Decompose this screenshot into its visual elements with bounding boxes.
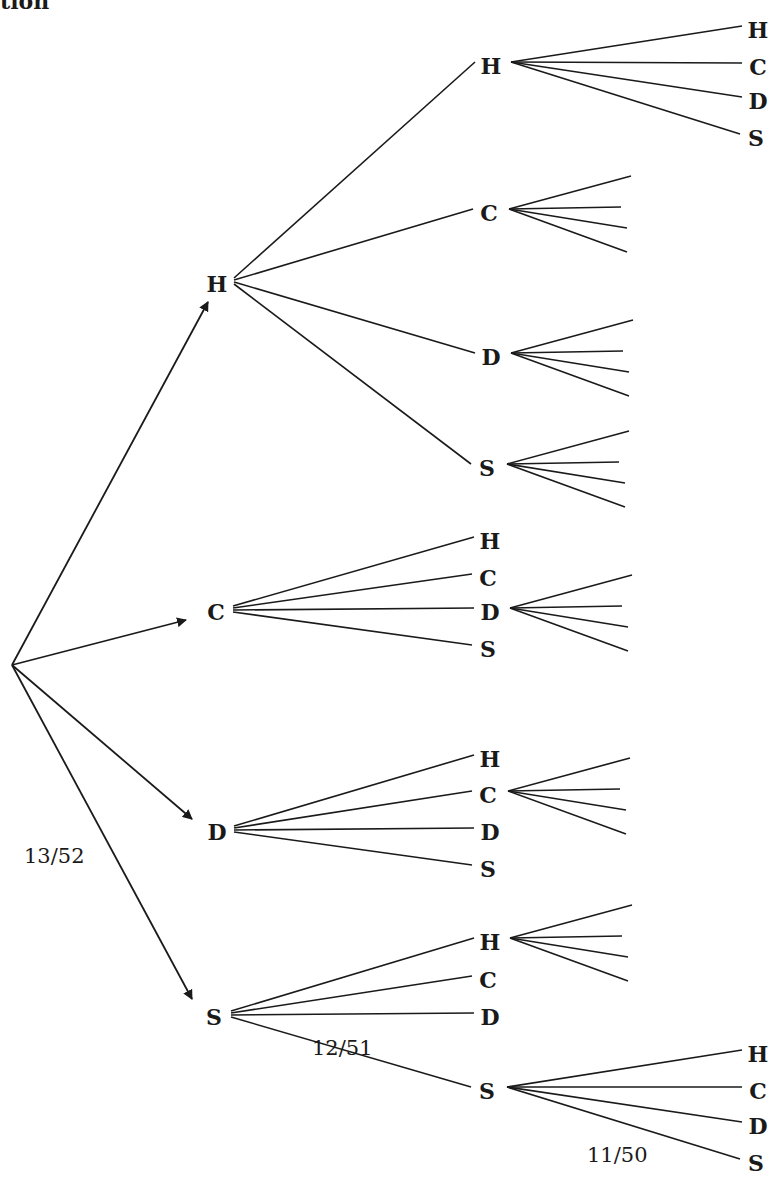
node-l3-diamonds: D [748, 90, 767, 112]
node-l2-clubs-spades: S [480, 638, 496, 660]
branch-diamonds-hearts [234, 755, 474, 826]
node-l2-hearts-clubs: C [480, 202, 498, 224]
branch-l3-stub [508, 791, 626, 810]
node-l1-diamonds: D [207, 821, 226, 843]
branch-root-spades [12, 665, 192, 999]
branch-l3-stub [510, 905, 632, 938]
branch-hearts-diamonds [234, 282, 475, 353]
node-l2-spades-clubs: C [479, 969, 497, 991]
node-l1-hearts: H [207, 273, 228, 295]
node-l2-spades-hearts: H [480, 931, 501, 953]
branch-spades-clubs [231, 976, 472, 1013]
branch-l3-hearts-hearts-diamonds [511, 62, 742, 97]
branch-diamonds-clubs [234, 791, 472, 828]
branch-l3-stub [509, 209, 627, 252]
branch-l3-stub [510, 606, 622, 608]
branch-l3-stub [507, 464, 625, 507]
node-l2-spades-spades: S [479, 1080, 495, 1102]
branch-l3-stub [510, 575, 632, 608]
branch-l3-hearts-hearts-hearts [511, 26, 742, 62]
node-l3-clubs: C [749, 1080, 767, 1102]
branch-l3-stub [508, 758, 630, 791]
branch-root-hearts [12, 302, 208, 665]
branch-hearts-clubs [234, 209, 473, 280]
branch-l3-stub [511, 320, 633, 353]
branch-l3-stub [510, 608, 628, 651]
node-l3-spades: S [748, 127, 764, 149]
branch-l3-stub [510, 936, 622, 938]
branch-l3-stub [507, 462, 619, 464]
node-l3-clubs: C [749, 56, 767, 78]
branch-l3-hearts-hearts-clubs [511, 62, 742, 63]
branch-clubs-spades [233, 612, 472, 645]
node-l3-spades: S [748, 1152, 764, 1174]
probability-label: 13/52 [24, 845, 85, 867]
node-l3-hearts: H [748, 19, 769, 41]
branch-l3-stub [509, 207, 621, 209]
branch-l3-stub [511, 351, 623, 353]
branch-root-clubs [12, 620, 186, 665]
node-l3-hearts: H [748, 1043, 769, 1065]
branch-root-diamonds [12, 665, 192, 819]
branch-l3-stub [511, 353, 629, 396]
node-l2-diamonds-diamonds: D [480, 821, 499, 843]
node-l2-clubs-clubs: C [479, 567, 497, 589]
node-l2-diamonds-spades: S [480, 858, 496, 880]
branch-l3-stub [511, 353, 629, 372]
branch-l3-hearts-hearts-spades [511, 62, 740, 134]
node-l2-diamonds-hearts: H [480, 748, 501, 770]
branch-l3-stub [509, 209, 627, 228]
probability-tree-diagram [0, 0, 778, 1191]
node-l2-spades-diamonds: D [480, 1006, 499, 1028]
branch-l3-stub [507, 431, 629, 464]
branch-spades-hearts [231, 938, 474, 1011]
probability-label: 11/50 [587, 1144, 648, 1166]
branch-l3-stub [510, 938, 628, 957]
node-l2-clubs-hearts: H [480, 530, 501, 552]
branch-diamonds-diamonds [234, 828, 474, 830]
branch-hearts-spades [234, 284, 471, 464]
branch-clubs-diamonds [233, 608, 474, 610]
branch-l3-stub [510, 608, 628, 627]
node-l3-diamonds: D [748, 1115, 767, 1137]
node-l2-hearts-hearts: H [481, 55, 502, 77]
node-l2-hearts-diamonds: D [481, 346, 500, 368]
branch-l3-stub [510, 938, 628, 981]
branch-l3-stub [507, 464, 625, 483]
branch-clubs-hearts [233, 537, 474, 606]
probability-label: 12/51 [312, 1037, 373, 1059]
node-l2-hearts-spades: S [479, 457, 495, 479]
node-l2-diamonds-clubs: C [479, 784, 497, 806]
node-l1-clubs: C [207, 601, 225, 623]
node-l2-clubs-diamonds: D [480, 601, 499, 623]
branch-diamonds-spades [234, 832, 472, 865]
node-l1-spades: S [206, 1006, 222, 1028]
branch-l3-stub [508, 789, 620, 791]
branch-hearts-hearts [234, 62, 475, 278]
branch-l3-spades-spades-diamonds [507, 1087, 742, 1122]
branch-l3-stub [509, 176, 631, 209]
branch-l3-stub [508, 791, 626, 834]
branch-l3-spades-spades-hearts [507, 1050, 742, 1087]
branch-clubs-clubs [233, 574, 472, 608]
branch-spades-diamonds [231, 1013, 474, 1015]
